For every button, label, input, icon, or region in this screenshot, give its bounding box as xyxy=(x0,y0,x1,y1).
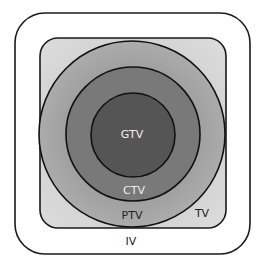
iv-label: IV xyxy=(126,235,137,248)
tv-label: TV xyxy=(194,207,210,220)
ctv-label: CTV xyxy=(123,184,145,197)
gtv-label: GTV xyxy=(121,128,144,141)
ptv-label: PTV xyxy=(122,209,143,222)
nested-volumes-diagram: GTV CTV PTV TV IV xyxy=(0,0,261,267)
